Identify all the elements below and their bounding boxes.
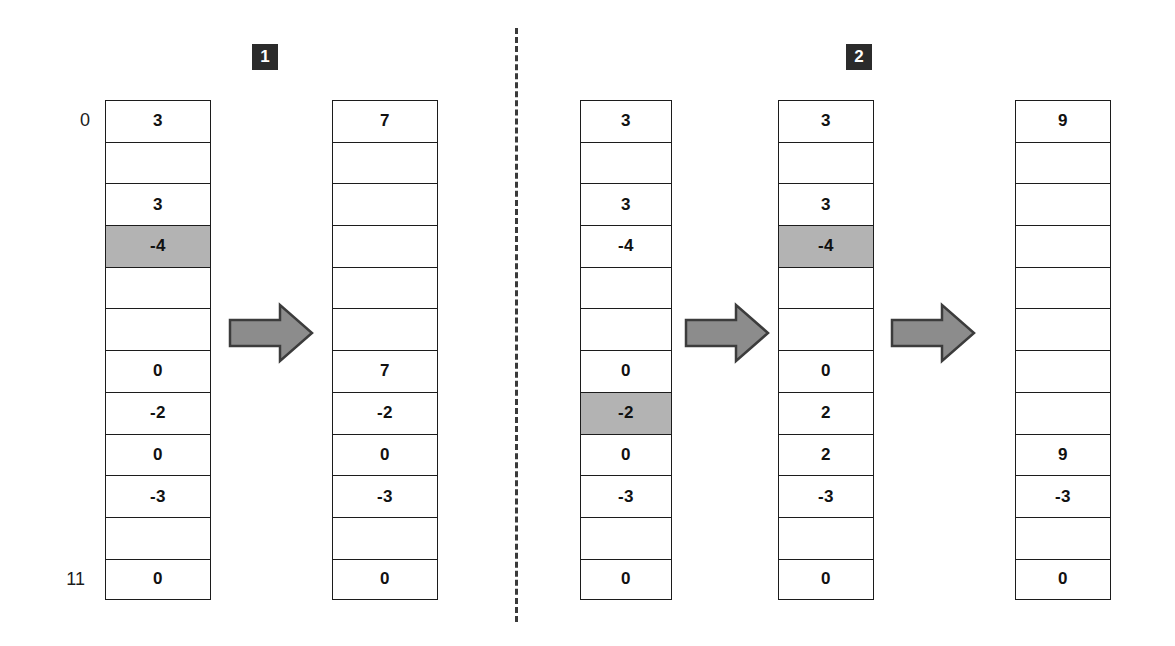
array-cell [332,517,438,559]
array-cell: -3 [1015,475,1111,517]
array-cell: 3 [580,100,672,142]
array-cell [778,308,874,350]
array-cell: -4 [778,225,874,267]
array-cell: -3 [778,475,874,517]
array-cell: 0 [580,350,672,392]
array-cell: 3 [778,183,874,225]
array-cell [1015,267,1111,309]
array-cell: 7 [332,350,438,392]
array-cell [778,517,874,559]
array-cell: 3 [580,183,672,225]
array-4: 33-4022-30 [778,100,874,600]
array-5: 99-30 [1015,100,1111,600]
array-cell [1015,308,1111,350]
array-cell: -3 [105,475,211,517]
array-cell [1015,517,1111,559]
arrow-1 [228,302,314,364]
index-label-first: 0 [50,110,90,131]
section-divider [515,28,518,622]
array-cell [580,267,672,309]
array-2: 77-20-30 [332,100,438,600]
arrow-3 [890,302,976,364]
array-cell: 0 [778,350,874,392]
array-cell: -2 [105,392,211,434]
array-cell: 0 [778,559,874,601]
array-cell: 2 [778,392,874,434]
array-3: 33-40-20-30 [580,100,672,600]
array-cell: -2 [580,392,672,434]
index-label-last: 11 [45,569,85,590]
array-cell: 0 [1015,559,1111,601]
array-cell: 0 [580,434,672,476]
step-badge-2: 2 [846,44,872,70]
array-cell [580,517,672,559]
step-badge-1: 1 [252,44,278,70]
array-cell: -2 [332,392,438,434]
array-cell: -4 [580,225,672,267]
array-cell [332,308,438,350]
array-cell: 9 [1015,100,1111,142]
array-cell [778,142,874,184]
array-cell [105,517,211,559]
array-cell [580,308,672,350]
array-cell [105,142,211,184]
array-cell [1015,350,1111,392]
array-cell: 0 [332,434,438,476]
array-cell: 0 [105,350,211,392]
array-cell: 0 [105,559,211,601]
array-cell [332,142,438,184]
array-cell [1015,183,1111,225]
array-cell [1015,392,1111,434]
array-cell: 0 [580,559,672,601]
array-cell [580,142,672,184]
array-cell [105,308,211,350]
array-1: 33-40-20-30 [105,100,211,600]
array-cell [332,267,438,309]
array-cell [332,183,438,225]
array-cell: -3 [332,475,438,517]
array-cell [778,267,874,309]
array-cell: -3 [580,475,672,517]
array-cell: -4 [105,225,211,267]
array-cell [1015,225,1111,267]
array-cell [1015,142,1111,184]
diagram-canvas: 1 2 0 11 33-40-20-3077-20-3033-40-20-303… [0,0,1175,646]
array-cell [332,225,438,267]
arrow-2 [684,302,770,364]
array-cell: 3 [105,183,211,225]
array-cell: 7 [332,100,438,142]
array-cell: 2 [778,434,874,476]
array-cell [105,267,211,309]
array-cell: 0 [105,434,211,476]
array-cell: 9 [1015,434,1111,476]
array-cell: 3 [778,100,874,142]
array-cell: 3 [105,100,211,142]
array-cell: 0 [332,559,438,601]
